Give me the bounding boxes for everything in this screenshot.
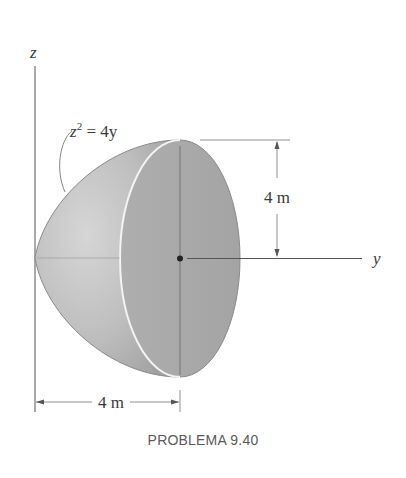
length-dimension-label: 4 m [98,393,124,412]
figure-caption: PROBLEMA 9.40 [0,432,406,448]
height-dimension-label: 4 m [264,188,290,207]
height-arrow-up-icon [275,141,280,149]
length-arrow-right-icon [171,400,179,405]
equation-label: z2 = 4y [69,120,118,141]
height-arrow-down-icon [275,249,280,257]
length-arrow-left-icon [36,400,44,405]
center-point [177,256,183,262]
z-axis-label: z [29,43,37,62]
paraboloid-figure: z y z2 = 4y 4 m 4 m [0,0,406,478]
y-axis-label: y [371,249,381,268]
